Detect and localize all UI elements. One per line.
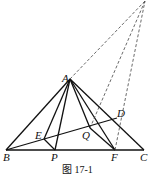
segment-BD — [6, 118, 117, 150]
label-Q: Q — [82, 130, 90, 141]
label-F: F — [111, 152, 118, 163]
dashed-AO — [70, 1, 145, 79]
label-B: B — [3, 152, 10, 163]
segment-AF — [70, 79, 115, 150]
label-D: D — [117, 108, 125, 119]
segment-AQ — [70, 79, 90, 128]
label-P: P — [51, 152, 58, 163]
figure-caption: 图 17-1 — [62, 165, 93, 175]
dashed-FO — [115, 1, 145, 150]
segment-AE — [44, 79, 70, 139]
geometry-figure: A B C D E P Q F 图 17-1 — [0, 0, 155, 176]
segment-EP — [44, 139, 55, 150]
label-C: C — [140, 152, 147, 163]
label-E: E — [35, 130, 42, 141]
label-A: A — [62, 73, 69, 84]
diagram-canvas — [0, 0, 155, 176]
segment-AP — [55, 79, 70, 150]
